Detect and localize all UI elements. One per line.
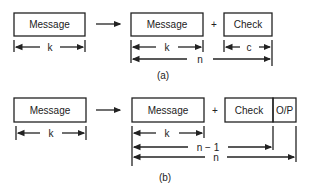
dim-k-output-a: k <box>165 42 171 53</box>
codeword-diagram: Message Message + Check k k c n (a) Mess… <box>0 0 309 191</box>
caption-a: (a) <box>157 70 169 81</box>
caption-b: (b) <box>159 172 171 183</box>
dim-k-input-b: k <box>49 128 55 139</box>
input-message-label-b: Message <box>30 105 71 116</box>
input-message-label-a: Message <box>29 19 70 30</box>
output-message-label-a: Message <box>147 19 188 30</box>
dim-k-output-b: k <box>165 128 171 139</box>
check-label-b: Check <box>235 105 264 116</box>
plus-sign-a: + <box>211 19 217 30</box>
output-message-label-b: Message <box>148 105 189 116</box>
dim-n-a: n <box>197 54 203 65</box>
dim-n-b: n <box>213 152 219 163</box>
parity-label-b: O/P <box>276 105 294 116</box>
check-label-a: Check <box>234 19 263 30</box>
plus-sign-b: + <box>212 105 218 116</box>
dim-c-a: c <box>247 42 252 53</box>
dim-k-input-a: k <box>48 42 54 53</box>
